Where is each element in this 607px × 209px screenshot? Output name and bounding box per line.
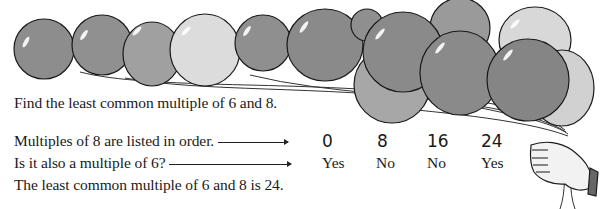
multiple-value: 24 (481, 131, 503, 151)
conclusion: The least common multiple of 6 and 8 is … (14, 176, 284, 194)
arrow-icon (218, 142, 288, 143)
answer-value: Yes (322, 154, 345, 172)
answer-value: No (376, 154, 395, 172)
multiple-value: 0 (322, 131, 333, 151)
row1-label-text: Multiples of 8 are listed in order. (14, 132, 214, 149)
answer-value: No (427, 154, 446, 172)
balloon (14, 19, 74, 79)
arrow-icon (169, 164, 291, 165)
multiple-value: 8 (377, 131, 388, 151)
multiple-value: 16 (427, 131, 449, 151)
answer-value: Yes (481, 154, 504, 172)
row-label-multiples-of-8: Multiples of 8 are listed in order. (14, 132, 288, 150)
row2-label-text: Is it also a multiple of 6? (14, 154, 165, 171)
row-label-multiple-of-6: Is it also a multiple of 6? (14, 154, 291, 172)
problem-prompt: Find the least common multiple of 6 and … (14, 94, 277, 112)
